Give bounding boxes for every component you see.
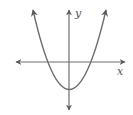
x-axis-label: x (117, 65, 124, 78)
y-axis-label: y (74, 7, 82, 20)
parabola-graph: y x (0, 0, 133, 115)
